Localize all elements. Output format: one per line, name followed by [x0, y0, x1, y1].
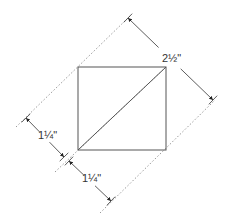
total-width-dimension-line: [181, 69, 213, 100]
dimension-label-total: 2½": [162, 52, 181, 64]
cutting-diagram: 2½" 1¼" 1¼": [0, 0, 227, 222]
dimension-label-upper-half: 1¼": [38, 129, 57, 141]
upper-half-width-dimension-line: [50, 142, 64, 157]
upper-left-guide-dotted-line: [16, 16, 130, 127]
dimension-label-lower-half: 1¼": [82, 172, 101, 184]
lower-right-guide-dotted-line: [100, 100, 215, 213]
lower-half-width-dimension-line: [95, 186, 111, 201]
total-width-dimension-line: [128, 18, 159, 48]
diagonal-cut-line: [78, 67, 166, 150]
dimension-lines: [22, 14, 217, 206]
